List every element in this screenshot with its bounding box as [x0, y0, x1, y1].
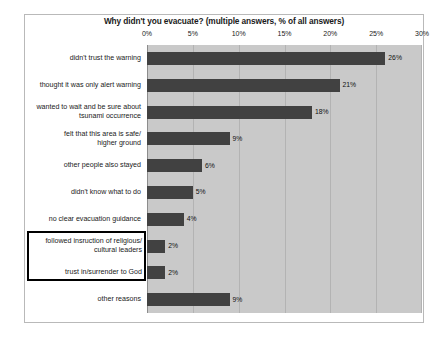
chart-container: Why didn't you evacuate? (multiple answe… [0, 0, 437, 337]
bar-value-label: 5% [196, 188, 206, 195]
x-axis-tick-labels: 0%5%10%15%20%25%30% [147, 30, 422, 44]
bar-value-label: 26% [388, 54, 402, 61]
bar [147, 293, 230, 306]
chart-title: Why didn't you evacuate? (multiple answe… [24, 16, 424, 26]
bar [147, 106, 312, 119]
bar-value-label: 6% [205, 162, 215, 169]
bar [147, 52, 385, 65]
bar-value-label: 2% [168, 242, 178, 249]
category-label: other people also stayed [10, 161, 144, 170]
plot-area: 26%21%18%9%6%5%4%2%2%9% [147, 45, 422, 313]
bar [147, 213, 184, 226]
bar [147, 240, 165, 253]
x-tick-label: 25% [369, 30, 383, 37]
category-label: wanted to wait and be sure about tsunami… [10, 103, 144, 121]
bar-value-label: 9% [233, 135, 243, 142]
bar [147, 186, 193, 199]
bar-value-label: 9% [233, 296, 243, 303]
x-tick-label: 15% [277, 30, 291, 37]
x-tick-label: 10% [232, 30, 246, 37]
bar [147, 159, 202, 172]
category-label: thought it was only alert warning [10, 81, 144, 90]
x-tick-label: 5% [188, 30, 198, 37]
category-label: no clear evacuation guidance [10, 215, 144, 224]
category-label: didn't trust the warning [10, 54, 144, 63]
category-label: didn't know what to do [10, 188, 144, 197]
category-label: felt that this area is safe/ higher grou… [10, 130, 144, 148]
bar [147, 266, 165, 279]
highlight-callout-labels: followed insruction of religious/ cultur… [27, 231, 146, 281]
bar-value-label: 18% [315, 108, 329, 115]
bar-value-label: 4% [187, 215, 197, 222]
bar-series: 26%21%18%9%6%5%4%2%2%9% [147, 45, 422, 313]
bar [147, 132, 230, 145]
highlighted-category-label: trust in/surrender to God [29, 268, 142, 277]
x-tick-label: 30% [415, 30, 429, 37]
x-tick-label: 0% [142, 30, 152, 37]
highlighted-category-label: followed insruction of religious/ cultur… [29, 237, 142, 255]
x-tick-label: 20% [323, 30, 337, 37]
bar-value-label: 21% [343, 81, 357, 88]
category-label: other reasons [10, 295, 144, 304]
bar-value-label: 2% [168, 269, 178, 276]
bar [147, 79, 340, 92]
